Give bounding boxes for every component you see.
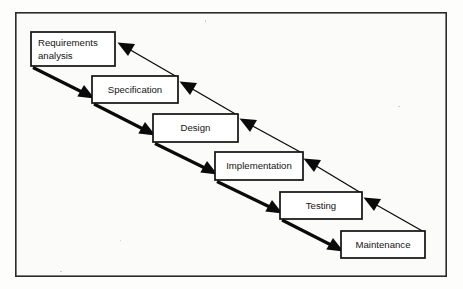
phase-label-specification: Specification: [108, 84, 162, 95]
phase-label-implementation: Implementation: [226, 160, 292, 171]
phase-label-requirements-analysis-line2: analysis: [38, 50, 73, 61]
phase-label-testing: Testing: [306, 200, 336, 211]
phase-box-design[interactable]: Design: [153, 114, 238, 142]
phase-label-maintenance: Maintenance: [356, 239, 411, 250]
phase-box-implementation[interactable]: Implementation: [215, 152, 303, 180]
phase-label-design: Design: [181, 122, 211, 133]
waterfall-diagram-canvas: Requirements analysis Specification Desi…: [0, 0, 463, 289]
phase-box-requirements-analysis[interactable]: Requirements analysis: [31, 32, 115, 66]
phase-box-maintenance[interactable]: Maintenance: [341, 231, 425, 258]
waterfall-diagram-page: Requirements analysis Specification Desi…: [0, 0, 463, 289]
phase-box-testing[interactable]: Testing: [280, 192, 362, 219]
phase-label-requirements-analysis-line1: Requirements: [38, 37, 98, 48]
phase-box-specification[interactable]: Specification: [92, 76, 178, 103]
